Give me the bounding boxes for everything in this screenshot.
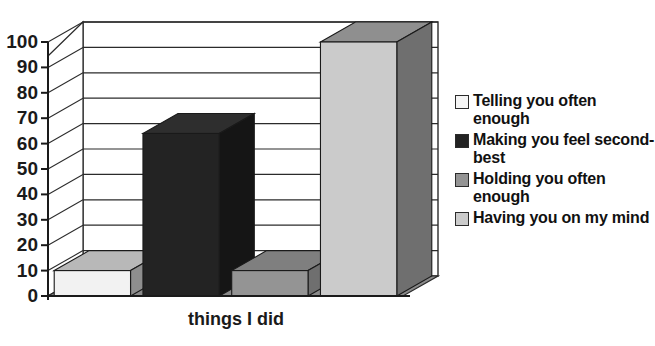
bar-chart: 0102030405060708090100 things I did Tell… xyxy=(0,0,655,346)
legend-swatch-icon xyxy=(455,95,469,109)
legend-swatch-icon xyxy=(455,173,469,187)
legend-item-1[interactable]: Making you feel second-best xyxy=(455,131,655,167)
y-tick-label: 10 xyxy=(17,260,38,281)
y-tick-label: 90 xyxy=(17,56,38,77)
legend-item-label: Telling you often enough xyxy=(473,92,655,128)
x-axis-label: things I did xyxy=(188,309,284,329)
y-tick-label: 0 xyxy=(27,285,38,306)
y-tick-label: 80 xyxy=(17,82,38,103)
bar-side-face xyxy=(397,22,432,296)
bar-front-face xyxy=(54,271,130,296)
y-tick-label: 30 xyxy=(17,209,38,230)
legend-item-label: Holding you often enough xyxy=(473,170,655,206)
y-tick-label: 60 xyxy=(17,133,38,154)
legend-item-label: Making you feel second-best xyxy=(473,131,655,167)
legend-item-label: Having you on my mind xyxy=(473,209,649,227)
bar-front-face xyxy=(232,271,308,296)
y-axis-ticks: 0102030405060708090100 xyxy=(6,31,48,306)
legend-item-2[interactable]: Holding you often enough xyxy=(455,170,655,206)
bar-front-face xyxy=(320,42,396,296)
legend-swatch-icon xyxy=(455,212,469,226)
bar-front-face xyxy=(143,133,219,296)
y-tick-label: 50 xyxy=(17,158,38,179)
y-tick-label: 40 xyxy=(17,183,38,204)
y-tick-label: 20 xyxy=(17,234,38,255)
legend-item-0[interactable]: Telling you often enough xyxy=(455,92,655,128)
legend-swatch-icon xyxy=(455,134,469,148)
y-tick-label: 70 xyxy=(17,107,38,128)
chart-legend: Telling you often enoughMaking you feel … xyxy=(455,92,655,230)
bar-3 xyxy=(320,22,431,296)
y-tick-label: 100 xyxy=(6,31,38,52)
legend-item-3[interactable]: Having you on my mind xyxy=(455,209,655,227)
